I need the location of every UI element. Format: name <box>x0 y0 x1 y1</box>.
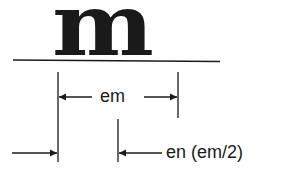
en-label: en (em/2) <box>166 143 243 161</box>
em-en-diagram: m em en (em/2) <box>0 0 295 172</box>
m-glyph: m <box>52 0 152 68</box>
em-label: em <box>100 87 125 105</box>
